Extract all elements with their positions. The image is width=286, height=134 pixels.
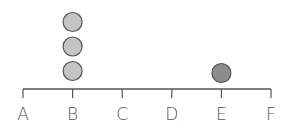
dot-plot-chart: ABCDEF bbox=[0, 0, 286, 134]
x-axis-ticks bbox=[23, 89, 271, 98]
tick-label-f: F bbox=[266, 104, 276, 124]
dot-e-1 bbox=[212, 64, 231, 83]
data-dots bbox=[63, 13, 231, 83]
dot-b-2 bbox=[63, 37, 82, 56]
tick-label-c: C bbox=[116, 104, 128, 124]
dot-b-1 bbox=[63, 62, 82, 81]
tick-label-e: E bbox=[216, 104, 227, 124]
dot-b-3 bbox=[63, 13, 82, 32]
tick-label-b: B bbox=[67, 104, 78, 124]
x-axis-labels: ABCDEF bbox=[17, 104, 276, 124]
tick-label-a: A bbox=[17, 104, 29, 124]
tick-label-d: D bbox=[165, 104, 178, 124]
